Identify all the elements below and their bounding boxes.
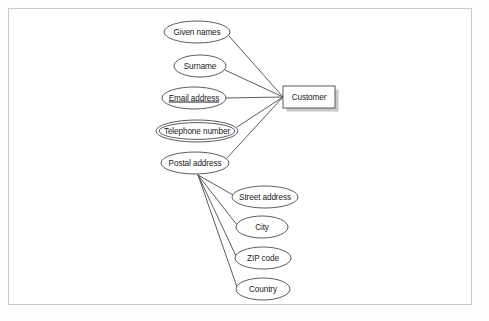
edge-given-names-to-customer <box>229 36 283 97</box>
sub-attribute-zip-code[interactable] <box>235 247 291 269</box>
entity-box <box>283 86 335 108</box>
sub-attribute-country[interactable] <box>236 278 290 300</box>
sub-attribute-city[interactable] <box>236 216 288 238</box>
edge-postal-address-to-street-address <box>198 175 233 195</box>
attribute-given-names[interactable] <box>164 21 230 43</box>
sub-attribute-zip-code-outline <box>235 247 291 269</box>
attribute-given-names-outline <box>164 21 230 43</box>
sub-attribute-city-outline <box>236 216 288 238</box>
attribute-surname-outline <box>174 55 226 77</box>
edge-postal-address-to-zip-code <box>198 175 236 256</box>
edge-surname-to-customer <box>225 70 283 97</box>
edge-postal-address-to-country <box>198 175 237 287</box>
entity-customer[interactable] <box>283 86 339 112</box>
sub-attribute-street-address-outline <box>232 186 298 208</box>
attribute-postal-address-outline <box>161 152 229 174</box>
sub-attribute-country-outline <box>236 278 290 300</box>
attribute-postal-address[interactable] <box>161 152 229 174</box>
attribute-email-address-outline <box>162 87 226 109</box>
attribute-email-address[interactable] <box>162 87 226 109</box>
attribute-telephone-number-outline <box>156 120 238 142</box>
edge-email-address-to-customer <box>226 97 283 98</box>
attribute-surname[interactable] <box>174 55 226 77</box>
diagram-canvas <box>0 0 489 321</box>
sub-attribute-street-address[interactable] <box>232 186 298 208</box>
er-diagram-figure: Given namesSurnameEmail addressTelephone… <box>0 0 489 321</box>
attribute-telephone-number[interactable] <box>156 120 238 142</box>
